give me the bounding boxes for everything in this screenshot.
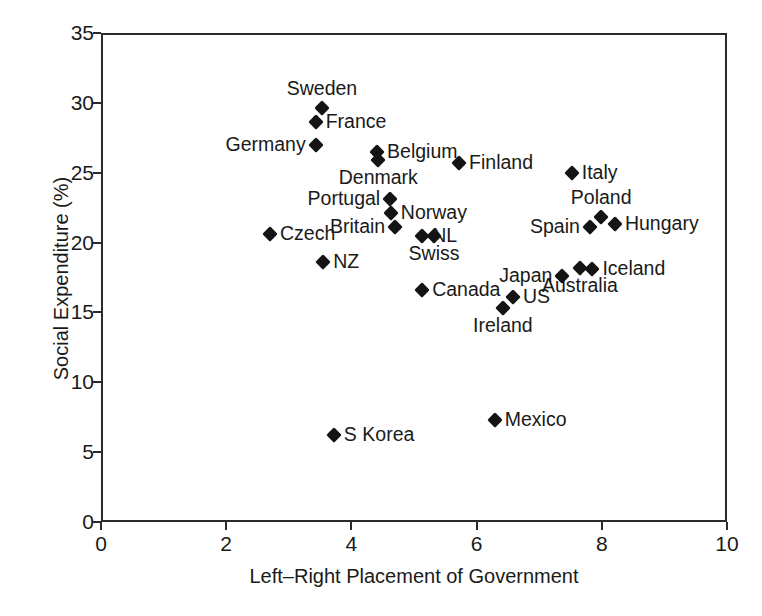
x-tick-mark	[225, 522, 227, 530]
y-axis-title: Social Expenditure (%)	[50, 79, 73, 479]
y-tick-mark	[93, 242, 101, 244]
x-tick-mark	[476, 522, 478, 530]
x-tick-label: 6	[447, 532, 507, 556]
x-tick-label: 10	[697, 532, 757, 556]
y-tick-mark	[93, 311, 101, 313]
x-tick-mark	[726, 522, 728, 530]
plot-area	[101, 33, 727, 522]
y-tick-mark	[93, 32, 101, 34]
y-tick-label: 35	[34, 22, 94, 43]
y-tick-mark	[93, 172, 101, 174]
x-tick-label: 8	[572, 532, 632, 556]
y-tick-label: 0	[34, 511, 94, 532]
x-tick-mark	[601, 522, 603, 530]
scatter-chart-figure: 05101520253035 0246810 SwedenFranceGerma…	[0, 0, 762, 616]
x-axis-title: Left–Right Placement of Government	[101, 565, 727, 588]
y-tick-mark	[93, 381, 101, 383]
x-tick-mark	[100, 522, 102, 530]
y-tick-mark	[93, 451, 101, 453]
x-tick-label: 2	[196, 532, 256, 556]
x-tick-label: 4	[321, 532, 381, 556]
x-tick-mark	[350, 522, 352, 530]
x-tick-label: 0	[71, 532, 131, 556]
y-tick-mark	[93, 102, 101, 104]
